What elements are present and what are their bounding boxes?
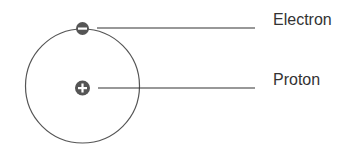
electron-label: Electron	[273, 12, 332, 28]
proton-label: Proton	[273, 72, 320, 88]
proton-icon	[75, 81, 90, 96]
electron-icon	[76, 22, 89, 35]
